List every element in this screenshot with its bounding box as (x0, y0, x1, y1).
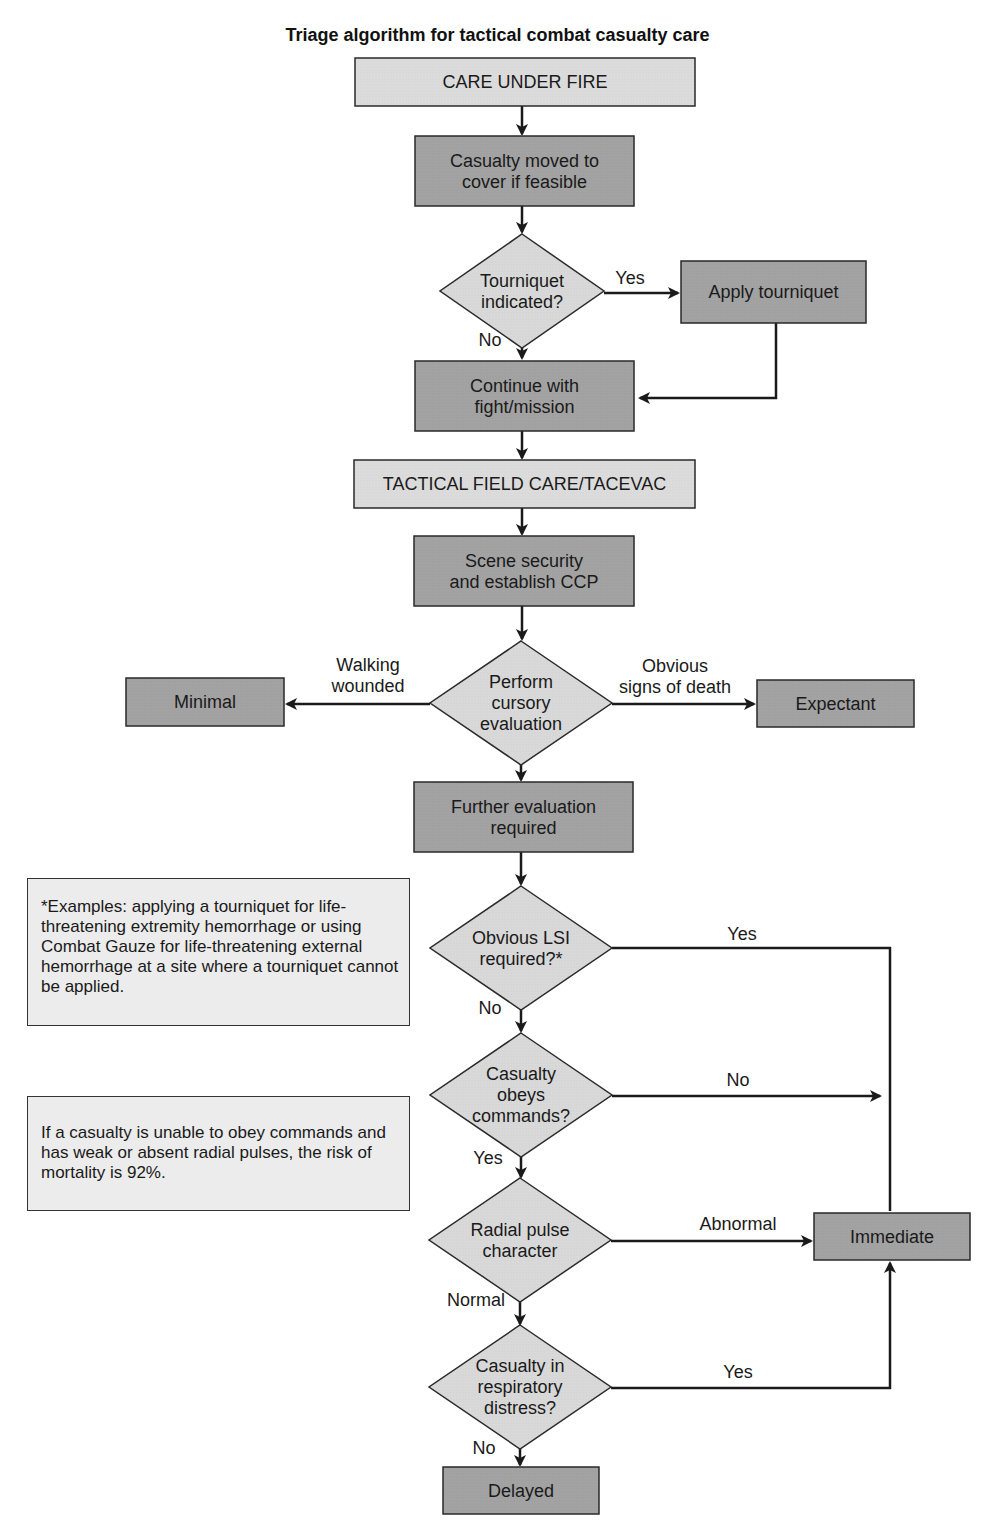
node-label: TACTICAL FIELD CARE/TACEVAC (383, 474, 666, 494)
node-label: character (482, 1241, 557, 1261)
edge-label: Obvious (642, 656, 708, 676)
flow-nodes: CARE UNDER FIRECasualty moved tocover if… (126, 58, 970, 1514)
respiratory-distress-decision: Casualty inrespiratorydistress? (429, 1325, 611, 1449)
note-text: If a casualty is unable to obey commands… (41, 1123, 399, 1183)
apply-tourniquet-box: Apply tourniquet (681, 261, 866, 323)
obeys-commands-decision: Casualtyobeyscommands? (430, 1033, 612, 1157)
node-label: Obvious LSI (472, 928, 570, 948)
delayed-box: Delayed (443, 1467, 599, 1514)
node-label: Radial pulse (470, 1220, 569, 1240)
edge-label: Yes (723, 1362, 752, 1382)
tactical-field-care-box: TACTICAL FIELD CARE/TACEVAC (354, 460, 695, 508)
minimal-box: Minimal (126, 678, 284, 726)
immediate-box: Immediate (814, 1213, 970, 1260)
node-label: Apply tourniquet (708, 282, 838, 302)
node-label: Casualty in (475, 1356, 564, 1376)
further-evaluation-box: Further evaluationrequired (414, 782, 633, 852)
expectant-box: Expectant (757, 680, 914, 727)
node-label: Casualty (486, 1064, 556, 1084)
node-label: Tourniquet (480, 271, 564, 291)
node-label: respiratory (477, 1377, 562, 1397)
connector-arrow (612, 948, 890, 1211)
mortality-note: If a casualty is unable to obey commands… (27, 1096, 410, 1211)
node-label: distress? (484, 1398, 556, 1418)
scene-security-box: Scene securityand establish CCP (414, 536, 634, 606)
node-label: Minimal (174, 692, 236, 712)
node-label: and establish CCP (449, 572, 598, 592)
node-label: Continue with (470, 376, 579, 396)
edge-label: Abnormal (699, 1214, 776, 1234)
edge-label: No (478, 998, 501, 1018)
care-under-fire-box: CARE UNDER FIRE (355, 58, 695, 106)
node-label: required?* (479, 949, 562, 969)
node-label: cursory (491, 693, 550, 713)
edge-label: Yes (727, 924, 756, 944)
node-label: Immediate (850, 1227, 934, 1247)
node-label: commands? (472, 1106, 570, 1126)
node-label: evaluation (480, 714, 562, 734)
radial-pulse-decision: Radial pulsecharacter (429, 1178, 611, 1302)
edge-label: No (472, 1438, 495, 1458)
edge-label: Yes (473, 1148, 502, 1168)
node-label: obeys (497, 1085, 545, 1105)
node-label: indicated? (481, 292, 563, 312)
edge-label: No (726, 1070, 749, 1090)
flowchart-canvas: CARE UNDER FIRECasualty moved tocover if… (0, 0, 995, 1532)
note-text: *Examples: applying a tourniquet for lif… (41, 897, 399, 997)
connector-arrow (640, 323, 776, 398)
edge-label: No (478, 330, 501, 350)
node-label: Further evaluation (451, 797, 596, 817)
continue-fight-box: Continue withfight/mission (415, 361, 634, 431)
node-label: Expectant (795, 694, 875, 714)
node-label: fight/mission (474, 397, 574, 417)
casualty-moved-box: Casualty moved tocover if feasible (415, 136, 634, 206)
node-label: Scene security (465, 551, 583, 571)
edge-label: wounded (330, 676, 404, 696)
lsi-examples-note: *Examples: applying a tourniquet for lif… (27, 878, 410, 1026)
node-label: Perform (489, 672, 553, 692)
tourniquet-indicated-decision: Tourniquetindicated? (440, 234, 604, 348)
node-label: CARE UNDER FIRE (442, 72, 607, 92)
cursory-evaluation-decision: Performcursoryevaluation (430, 641, 612, 765)
node-label: required (490, 818, 556, 838)
edge-label: signs of death (619, 677, 731, 697)
node-label: Casualty moved to (450, 151, 599, 171)
edge-label: Walking (336, 655, 399, 675)
node-label: Delayed (488, 1481, 554, 1501)
obvious-lsi-decision: Obvious LSIrequired?* (430, 886, 612, 1010)
edge-label: Normal (447, 1290, 505, 1310)
node-label: cover if feasible (462, 172, 587, 192)
edge-label: Yes (615, 268, 644, 288)
